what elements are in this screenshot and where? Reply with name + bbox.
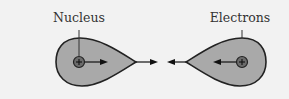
nucleus-label: Nucleus: [53, 10, 105, 25]
atom-polarization-diagram: Nucleus Electrons: [0, 0, 289, 99]
electrons-label: Electrons: [210, 10, 271, 25]
right-atom: [167, 30, 266, 86]
left-atom: [56, 30, 158, 86]
